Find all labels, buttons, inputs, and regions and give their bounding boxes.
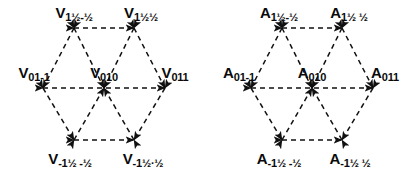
node-label-a-right: A011 xyxy=(371,65,399,82)
node-label-v-center: V010 xyxy=(90,65,118,82)
node-label-v-left: V01-1 xyxy=(18,65,49,82)
spoke-bottom-left-center xyxy=(282,88,312,140)
node-label-a-top-right: A1½ ½ xyxy=(330,5,367,22)
space-vector-hexagon-figure: V1½-½ V1½½ V01-1 V010 V011 V-1½ -½ V-1½·… xyxy=(0,0,417,176)
edge-upper-right xyxy=(134,28,165,88)
edge-lower-left xyxy=(251,88,282,140)
node-label-v-bottom-left: V-1½ -½ xyxy=(48,151,92,168)
edge-upper-right xyxy=(342,28,373,88)
edge-lower-right xyxy=(134,88,165,140)
spoke-bottom-left-center xyxy=(74,88,104,140)
node-label-v-top-right: V1½½ xyxy=(124,5,158,22)
node-label-v-right: V011 xyxy=(161,65,188,82)
node-label-a-top-left: A1½-½ xyxy=(260,5,298,22)
node-label-v-top-left: V1½-½ xyxy=(55,5,92,22)
spoke-bottom-right-center xyxy=(312,88,342,140)
node-label-a-bottom-right: A-1½ ½ xyxy=(330,151,371,168)
voltage-hexagon-graph xyxy=(0,0,209,176)
spoke-bottom-right-center xyxy=(104,88,134,140)
voltage-hexagon-panel: V1½-½ V1½½ V01-1 V010 V011 V-1½ -½ V-1½·… xyxy=(0,0,209,176)
node-label-a-bottom-left: A-1½ -½ xyxy=(257,151,301,168)
edge-lower-right xyxy=(342,88,373,140)
current-hexagon-graph xyxy=(208,0,417,176)
node-label-a-left: A01-1 xyxy=(223,65,255,82)
node-label-a-center: A010 xyxy=(298,65,327,82)
edge-lower-left xyxy=(43,88,74,140)
edge-upper-left xyxy=(251,28,282,88)
current-hexagon-panel: A1½-½ A1½ ½ A01-1 A010 A011 A-1½ -½ A-1½… xyxy=(208,0,417,176)
node-label-v-bottom-right: V-1½·½ xyxy=(123,151,164,168)
